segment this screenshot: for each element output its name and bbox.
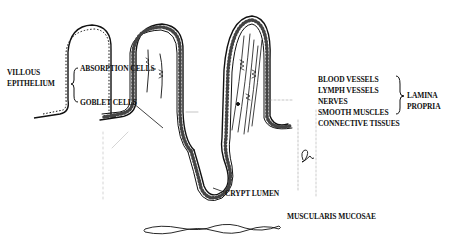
component-label: LYMPH VESSELS bbox=[318, 85, 400, 96]
component-label: BLOOD VESSELS bbox=[318, 74, 400, 85]
heading-line: LAMINA bbox=[407, 90, 440, 101]
muscularis-mucosae-band bbox=[144, 224, 281, 233]
goblet-cells-leader bbox=[133, 103, 163, 128]
component-label: SMOOTH MUSCLES bbox=[318, 107, 400, 118]
component-label: NERVES bbox=[318, 96, 400, 107]
crypt-lumen-label: CRYPT LUMEN bbox=[225, 188, 279, 199]
lamina-propria-heading: LAMINA PROPRIA bbox=[407, 90, 440, 112]
goblet-cells-label: GOBLET CELLS bbox=[80, 97, 137, 108]
heading-line: EPITHELIUM bbox=[7, 78, 55, 89]
heading-line: VILLOUS bbox=[7, 67, 55, 78]
component-label: CONNECTIVE TISSUES bbox=[318, 118, 400, 129]
lamina-propria-components: BLOOD VESSELS LYMPH VESSELS NERVES SMOOT… bbox=[318, 74, 400, 129]
mucosa-outline bbox=[100, 16, 316, 201]
heading-line: PROPRIA bbox=[407, 101, 440, 112]
muscularis-mucosae-label: MUSCULARIS MUCOSAE bbox=[287, 211, 376, 222]
absorption-cells-label: ABSORPTION CELLS bbox=[80, 63, 154, 74]
signature-icon bbox=[302, 150, 314, 162]
left-brace bbox=[71, 68, 78, 102]
diagram-canvas: VILLOUS EPITHELIUM ABSORPTION CELLS GOBL… bbox=[0, 0, 458, 250]
villous-epithelium-heading: VILLOUS EPITHELIUM bbox=[7, 67, 55, 89]
crypt-lumen-leader bbox=[213, 188, 224, 192]
